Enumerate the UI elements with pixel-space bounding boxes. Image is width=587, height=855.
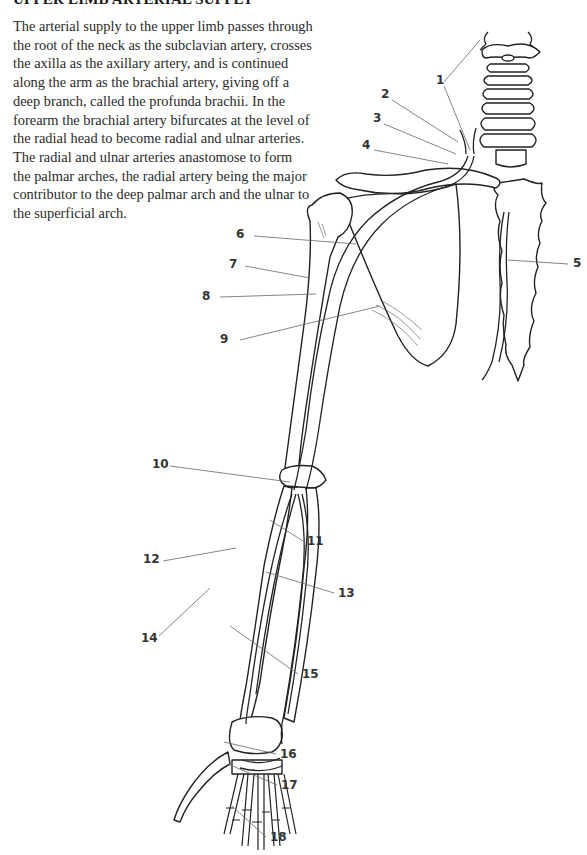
label-4: 4 xyxy=(362,138,370,152)
cervical-spine xyxy=(480,32,540,167)
label-13: 13 xyxy=(338,586,355,600)
label-12: 12 xyxy=(143,552,160,566)
label-15: 15 xyxy=(302,667,319,681)
label-8: 8 xyxy=(202,289,210,303)
label-7: 7 xyxy=(229,257,237,271)
label-17: 17 xyxy=(281,778,298,792)
label-10: 10 xyxy=(152,457,169,471)
clavicle xyxy=(336,168,500,193)
label-2: 2 xyxy=(381,87,389,101)
label-14: 14 xyxy=(141,631,158,645)
label-5: 5 xyxy=(573,256,581,270)
arterial-supply-diagram: 1 2 3 4 5 6 7 8 9 10 11 12 13 14 15 16 1… xyxy=(0,0,587,855)
label-6: 6 xyxy=(236,227,244,241)
label-18: 18 xyxy=(270,830,287,844)
label-3: 3 xyxy=(373,111,381,125)
scapula xyxy=(340,184,460,366)
label-1: 1 xyxy=(436,73,444,87)
label-9: 9 xyxy=(220,332,228,346)
label-11: 11 xyxy=(307,534,324,548)
humerus xyxy=(284,193,352,487)
label-16: 16 xyxy=(280,747,297,761)
